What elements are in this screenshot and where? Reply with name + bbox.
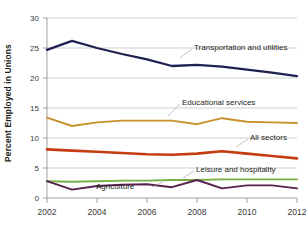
y-tick-label: 10 [30,134,39,143]
chart-canvas: 30 25 20 15 10 5 0 2002 2004 2006 2008 2… [0,0,308,227]
x-tick-label: 2002 [38,207,57,217]
y-tick-label: 0 [35,194,40,203]
annotation-educational-services: Educational services [182,98,255,107]
x-axis-tick-labels: 2002 2004 2006 2008 2010 2012 [38,207,307,217]
line-chart-union-membership: 30 25 20 15 10 5 0 2002 2004 2006 2008 2… [0,0,308,227]
x-tick-label: 2006 [138,207,157,217]
y-tick-label: 20 [30,74,39,83]
y-axis-tick-labels: 30 25 20 15 10 5 0 [30,14,39,203]
x-tick-label: 2012 [288,207,307,217]
annotation-agriculture: Agriculture [96,182,135,191]
x-tick-label: 2008 [188,207,207,217]
y-tick-label: 25 [30,44,39,53]
annotation-transportation-and-utilities: Transportation and utilities [194,43,288,52]
x-tick-label: 2010 [238,207,257,217]
annotation-leisure-and-hospitality: Leisure and hospitality [196,165,276,174]
x-axis-tickmarks [47,198,297,203]
x-tick-label: 2004 [88,207,107,217]
y-tick-label: 30 [30,14,39,23]
y-tick-label: 15 [30,104,39,113]
annotation-all-sectors: All sectors [250,133,287,142]
y-axis-tickmarks [43,18,47,198]
y-tick-label: 5 [35,164,40,173]
